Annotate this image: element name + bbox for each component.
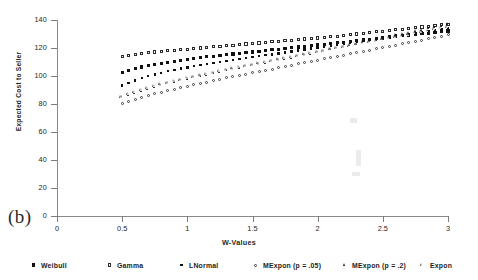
data-point <box>447 33 450 36</box>
legend-item-gamma[interactable]: Gamma <box>106 258 143 272</box>
data-point <box>166 61 169 64</box>
data-point <box>218 78 221 81</box>
data-point <box>427 31 430 34</box>
data-point <box>160 62 163 65</box>
data-point <box>336 43 338 45</box>
legend-label: MExpon (p = .2) <box>352 262 406 269</box>
y-axis-tick-label: 20 <box>3 183 47 192</box>
data-point <box>375 47 378 50</box>
data-point <box>199 46 202 49</box>
data-point <box>180 67 182 69</box>
data-point <box>297 45 300 48</box>
data-point <box>270 48 273 51</box>
data-point <box>199 74 201 77</box>
data-point <box>146 86 148 89</box>
data-point <box>375 37 377 39</box>
data-point <box>322 49 324 52</box>
data-point <box>440 30 443 33</box>
x-axis-tick <box>187 216 188 222</box>
data-point <box>199 82 202 85</box>
data-point <box>277 58 279 61</box>
data-point <box>420 30 422 33</box>
data-point <box>225 44 228 47</box>
data-point <box>140 52 143 55</box>
legend-item-mexpon-p-05[interactable]: MExpon (p = .05) <box>252 258 321 272</box>
legend-marker-icon <box>341 261 348 269</box>
data-point <box>154 73 156 75</box>
data-point <box>160 50 163 53</box>
data-point <box>270 40 273 43</box>
data-point <box>420 28 422 31</box>
data-point <box>225 76 228 79</box>
data-point <box>283 57 285 60</box>
data-point <box>271 68 274 71</box>
data-point <box>277 66 280 69</box>
legend-marker-icon <box>106 261 113 269</box>
data-point <box>368 49 371 52</box>
data-point <box>329 42 332 45</box>
data-point <box>251 71 254 74</box>
data-point <box>205 81 208 84</box>
data-point <box>427 30 429 32</box>
data-point <box>173 60 176 63</box>
chart-legend: WeibullGammaLNormalMExpon (p = .05)MExpo… <box>0 258 478 274</box>
y-axis-tick-label-wrap: 0 <box>0 211 47 221</box>
data-point <box>134 79 136 81</box>
data-point <box>283 47 286 50</box>
data-point <box>127 54 130 57</box>
data-point <box>369 38 371 40</box>
legend-item-lnormal[interactable]: LNormal <box>178 258 218 272</box>
data-point <box>310 60 313 63</box>
data-point <box>342 34 345 37</box>
data-point <box>368 31 371 34</box>
data-point <box>362 50 365 53</box>
data-point <box>310 47 312 49</box>
data-point <box>264 60 266 63</box>
data-point <box>238 66 240 69</box>
legend-item-expon[interactable]: Expon <box>419 258 452 272</box>
data-point <box>394 44 397 47</box>
data-point <box>192 75 194 78</box>
data-point <box>173 80 175 83</box>
data-point <box>336 41 339 44</box>
data-point <box>225 68 227 71</box>
x-axis-tick <box>383 216 384 222</box>
data-point <box>401 28 404 31</box>
data-point <box>349 41 351 43</box>
legend-item-mexpon-p-2[interactable]: MExpon (p = .2) <box>341 258 406 272</box>
data-point <box>362 38 365 41</box>
data-point <box>140 88 142 91</box>
x-axis-tick <box>448 216 449 222</box>
data-point <box>447 27 449 29</box>
data-point <box>322 49 324 52</box>
legend-label: LNormal <box>189 262 218 269</box>
data-point <box>251 50 254 53</box>
data-point <box>427 37 430 40</box>
data-point <box>290 55 292 58</box>
y-axis-tick-label: 40 <box>3 155 47 164</box>
legend-item-weibull[interactable]: Weibull <box>30 258 67 272</box>
data-point <box>212 55 215 58</box>
data-point <box>179 78 181 81</box>
data-point <box>153 63 156 66</box>
data-point <box>394 35 396 38</box>
data-point <box>225 60 227 62</box>
data-point <box>440 26 442 29</box>
data-point <box>133 90 135 93</box>
data-point <box>356 40 358 42</box>
y-axis-tick-label: 60 <box>3 127 47 136</box>
data-point <box>303 52 305 55</box>
data-point <box>440 28 442 30</box>
data-point <box>245 57 247 59</box>
data-point <box>232 59 234 61</box>
data-point <box>147 64 150 67</box>
data-point <box>121 84 123 86</box>
data-point <box>414 32 416 34</box>
data-point <box>257 62 259 65</box>
data-point <box>160 91 163 94</box>
data-point <box>309 51 311 54</box>
data-point <box>212 45 215 48</box>
data-point <box>218 54 221 57</box>
data-point <box>329 35 332 38</box>
data-point <box>284 65 287 68</box>
